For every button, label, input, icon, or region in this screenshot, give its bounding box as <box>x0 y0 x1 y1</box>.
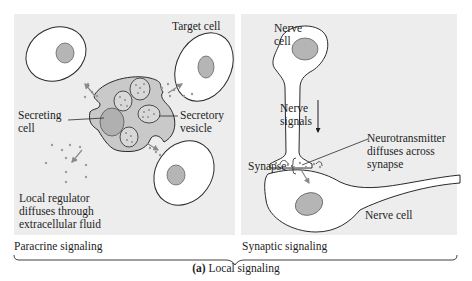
label-secreting-cell-1: Secreting <box>18 109 61 122</box>
label-secretory-vesicle-1: Secretory <box>180 109 224 122</box>
label-nerve-cell-top-2: cell <box>274 35 291 48</box>
caption-letter: (a) <box>192 262 205 274</box>
nucleus <box>100 108 124 136</box>
label-secretory-vesicle-2: vesicle <box>180 122 212 135</box>
nerve-cell-bottom <box>265 170 460 232</box>
synaptic-signaling-label: Synaptic signaling <box>242 240 327 252</box>
label-local-regulator-2: diffuses through <box>19 205 94 218</box>
target-cell-top-right <box>163 23 244 112</box>
target-cell-top-left <box>16 16 95 91</box>
paracrine-signaling-label: Paracrine signaling <box>14 240 102 252</box>
target-cell-bottom-right <box>142 129 227 217</box>
label-local-regulator-3: extracellular fluid <box>19 218 101 231</box>
label-neurotransmitter-1: Neurotransmitter <box>367 132 446 145</box>
label-neurotransmitter-3: synapse <box>367 158 403 171</box>
label-nerve-signals-2: signals <box>280 115 312 128</box>
label-neurotransmitter-2: diffuses across <box>367 145 435 158</box>
figure-caption: (a) Local signaling <box>0 262 472 274</box>
label-synapse: Synapse <box>248 160 286 173</box>
caption-text: Local signaling <box>206 262 280 274</box>
label-nerve-cell-top-1: Nerve <box>274 22 302 35</box>
label-secreting-cell-2: cell <box>18 122 35 135</box>
label-nerve-cell-bottom: Nerve cell <box>365 209 413 222</box>
label-target-cell: Target cell <box>172 20 220 33</box>
label-local-regulator-1: Local regulator <box>19 192 90 205</box>
label-nerve-signals-1: Nerve <box>280 102 308 115</box>
